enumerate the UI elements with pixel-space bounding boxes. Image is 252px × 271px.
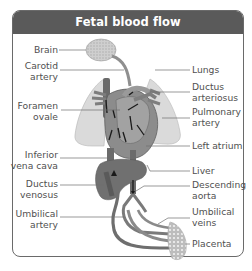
label-left-atrium: Left atrium [192,141,243,152]
label-descending-aorta: Descendingaorta [192,180,246,201]
fetal-circulation-illustration [0,0,252,271]
label-foramen-ovale: Foramenovale [10,101,58,122]
liver-shape [96,159,147,200]
label-lungs: Lungs [192,65,219,76]
label-placenta: Placenta [192,239,231,250]
label-brain: Brain [20,45,58,56]
label-liver: Liver [192,166,215,177]
label-ductus-arteriosus: Ductusarteriosus [192,82,238,103]
label-umbilical-artery: Umbilicalartery [8,209,58,230]
carotid-vessel [112,56,130,86]
label-umbilical-veins: Umbilicalveins [192,207,234,228]
label-carotid-artery: Carotidartery [14,61,58,82]
label-inferior-vena-cava: Inferiorvena cava [6,150,58,171]
placenta-shape [168,222,186,260]
brain-shape [86,39,116,61]
label-ductus-venosus: Ductusvenosus [10,179,58,200]
label-pulmonary-artery: Pulmonaryartery [192,107,241,128]
